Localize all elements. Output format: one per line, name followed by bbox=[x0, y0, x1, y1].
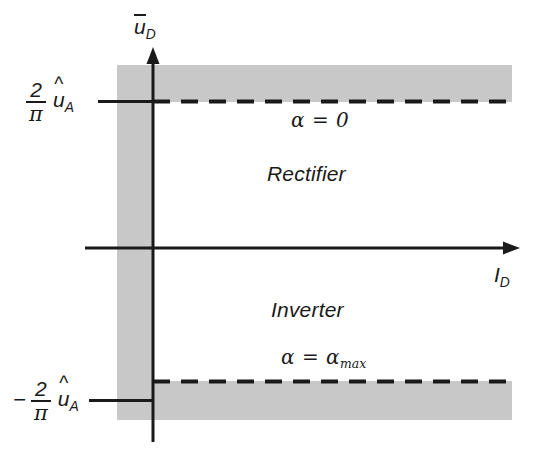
region-label-inverter: Inverter bbox=[271, 299, 344, 320]
alpha-symbol: α bbox=[281, 345, 295, 369]
u-hat-a-symbol: uA bbox=[50, 89, 74, 115]
fraction-two-over-pi-negative: 2 π bbox=[31, 378, 51, 424]
y-axis-symbol-base: u bbox=[134, 16, 146, 37]
equals-symbol: = bbox=[302, 345, 319, 369]
u-hat-subscript: A bbox=[65, 99, 74, 115]
alpha-symbol: α bbox=[291, 108, 305, 132]
upper-forbidden-band bbox=[117, 65, 512, 102]
fraction-two-over-pi: 2 π bbox=[26, 79, 46, 125]
x-axis-symbol-subscript: D bbox=[500, 274, 510, 290]
u-hat-a-symbol-negative: uA bbox=[55, 388, 79, 414]
alpha-max-value: α bbox=[326, 345, 340, 369]
y-axis-symbol-subscript: D bbox=[146, 26, 156, 42]
u-hat-subscript: A bbox=[70, 398, 79, 414]
y-axis-label: uD bbox=[134, 16, 156, 42]
u-hat-base: u bbox=[58, 388, 70, 409]
alpha-max-subscript: max bbox=[340, 356, 366, 371]
lower-forbidden-band bbox=[117, 381, 512, 420]
annotation-alpha-zero: α = 0 bbox=[291, 110, 349, 130]
annotation-alpha-max: α = αmax bbox=[281, 347, 366, 370]
fraction-numerator: 2 bbox=[32, 378, 50, 400]
diagram-canvas: uD ID 2 π uA − 2 π uA α = 0 α = αmax Rec… bbox=[0, 0, 534, 454]
x-axis-arrowhead bbox=[503, 242, 520, 255]
region-label-rectifier: Rectifier bbox=[267, 163, 346, 184]
tick-label-positive: 2 π uA bbox=[26, 79, 74, 125]
y-axis-arrowhead bbox=[147, 47, 160, 64]
equals-symbol: = bbox=[312, 108, 329, 132]
fraction-denominator: π bbox=[26, 103, 46, 125]
fraction-denominator: π bbox=[31, 402, 51, 424]
alpha-zero-value: 0 bbox=[336, 108, 349, 132]
x-axis-label: ID bbox=[494, 264, 510, 290]
u-hat-base: u bbox=[53, 89, 65, 110]
tick-label-negative: − 2 π uA bbox=[13, 378, 79, 424]
dashed-boundaries bbox=[153, 102, 512, 382]
left-forbidden-band bbox=[117, 65, 153, 420]
minus-sign: − bbox=[13, 389, 27, 413]
fraction-numerator: 2 bbox=[27, 79, 45, 101]
diagram-vector-layer bbox=[0, 0, 534, 454]
